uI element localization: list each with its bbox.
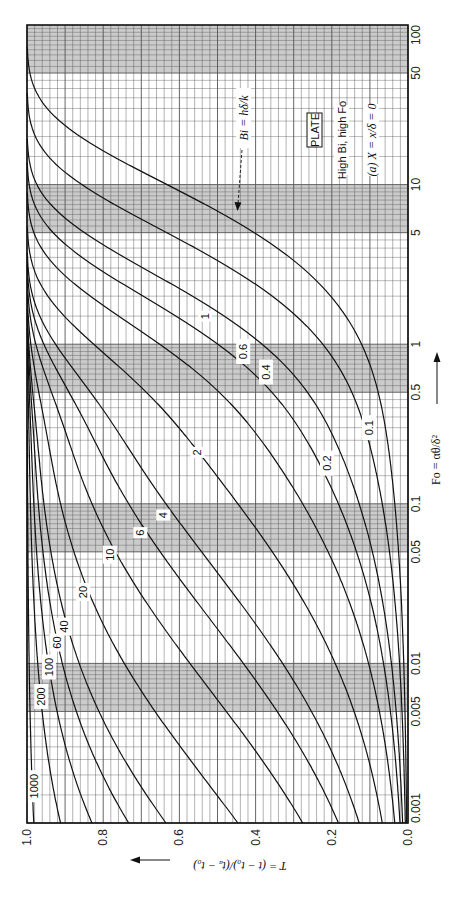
curve-label-6: 6 bbox=[133, 527, 147, 538]
svg-text:High Bi, high Fo: High Bi, high Fo bbox=[336, 101, 348, 179]
svg-text:1.0: 1.0 bbox=[20, 829, 34, 846]
svg-text:2: 2 bbox=[191, 449, 203, 455]
svg-text:0.6: 0.6 bbox=[172, 829, 186, 846]
curve-label-60: 60 bbox=[50, 634, 64, 652]
fo-tick-label: 0.1 bbox=[409, 495, 423, 512]
t-tick-label: 0.0 bbox=[401, 829, 415, 846]
curve-label-20: 20 bbox=[76, 583, 90, 601]
t-axis-ticks: 0.00.20.40.60.81.0 bbox=[20, 829, 415, 846]
curve-label-10: 10 bbox=[103, 546, 117, 564]
fo-axis-label: Fo = αθ/δ² bbox=[429, 435, 443, 485]
curve-bi-0.4 bbox=[27, 139, 402, 823]
svg-text:100: 100 bbox=[409, 25, 423, 45]
svg-text:0.005: 0.005 bbox=[409, 696, 423, 726]
svg-text:0.1: 0.1 bbox=[409, 495, 423, 512]
t-axis-label: T = (t − t₀)/(tₐ − t₀) bbox=[193, 859, 286, 873]
svg-text:Fo = αθ/δ²: Fo = αθ/δ² bbox=[429, 435, 443, 485]
fo-tick-label: 0.005 bbox=[409, 696, 423, 726]
fo-tick-label: 5 bbox=[409, 229, 423, 236]
svg-text:0.2: 0.2 bbox=[325, 829, 339, 846]
t-tick-label: 0.2 bbox=[325, 829, 339, 846]
bi-arrow-label: Bi = hδ/k bbox=[236, 88, 251, 148]
svg-text:PLATE: PLATE bbox=[309, 113, 321, 147]
svg-text:0.01: 0.01 bbox=[409, 651, 423, 675]
t-tick-label: 0.6 bbox=[172, 829, 186, 846]
svg-text:10: 10 bbox=[104, 549, 116, 561]
curve-label-0.1: 0.1 bbox=[362, 415, 376, 440]
svg-text:0.5: 0.5 bbox=[409, 384, 423, 401]
svg-text:0.0: 0.0 bbox=[401, 829, 415, 846]
subtitle-label: High Bi, high Fo bbox=[334, 101, 349, 179]
svg-text:1: 1 bbox=[409, 341, 423, 348]
curve-label-4: 4 bbox=[156, 510, 170, 521]
svg-text:200: 200 bbox=[35, 687, 47, 705]
svg-text:50: 50 bbox=[409, 66, 423, 80]
fo-tick-label: 0.01 bbox=[409, 651, 423, 675]
svg-text:(a) X = x/δ = 0: (a) X = x/δ = 0 bbox=[365, 104, 379, 177]
svg-text:0.2: 0.2 bbox=[321, 455, 333, 470]
svg-text:10: 10 bbox=[409, 178, 423, 192]
svg-text:1000: 1000 bbox=[28, 774, 40, 798]
curve-label-100: 100 bbox=[42, 655, 56, 680]
fo-tick-label: 0.5 bbox=[409, 384, 423, 401]
svg-text:0.4: 0.4 bbox=[249, 829, 263, 846]
t-tick-label: 0.4 bbox=[249, 829, 263, 846]
plate-temperature-chart: 0.10.20.40.61246102040601002001000 0.001… bbox=[0, 0, 455, 897]
svg-text:0.4: 0.4 bbox=[260, 364, 272, 379]
svg-text:5: 5 bbox=[409, 229, 423, 236]
svg-text:6: 6 bbox=[134, 530, 146, 536]
fo-tick-label: 0.001 bbox=[409, 793, 423, 823]
t-tick-label: 0.8 bbox=[96, 829, 110, 846]
t-tick-label: 1.0 bbox=[20, 829, 34, 846]
curve-label-1: 1 bbox=[198, 311, 212, 322]
curve-label-0.6: 0.6 bbox=[236, 339, 250, 364]
svg-text:4: 4 bbox=[157, 512, 169, 518]
curve-label-0.2: 0.2 bbox=[320, 451, 334, 476]
plate-title-box: PLATE bbox=[307, 113, 322, 147]
svg-text:100: 100 bbox=[43, 658, 55, 676]
svg-text:0.1: 0.1 bbox=[363, 420, 375, 435]
svg-text:0.8: 0.8 bbox=[96, 829, 110, 846]
curve-label-200: 200 bbox=[34, 684, 48, 709]
fo-tick-label: 100 bbox=[409, 25, 423, 45]
fo-axis-arrow-icon bbox=[434, 352, 441, 404]
t-axis-arrow-icon bbox=[130, 857, 170, 864]
curve-bi-0.6 bbox=[27, 163, 400, 823]
svg-text:1: 1 bbox=[199, 313, 211, 319]
svg-text:0.05: 0.05 bbox=[409, 540, 423, 564]
fo-tick-label: 0.05 bbox=[409, 540, 423, 564]
curve-label-0.4: 0.4 bbox=[259, 360, 273, 385]
fo-tick-label: 10 bbox=[409, 178, 423, 192]
panel-label: (a) X = x/δ = 0 bbox=[363, 104, 379, 177]
curve-label-2: 2 bbox=[190, 447, 204, 458]
svg-text:60: 60 bbox=[51, 636, 63, 648]
svg-text:0.6: 0.6 bbox=[237, 344, 249, 359]
svg-text:40: 40 bbox=[58, 620, 70, 632]
fo-axis-ticks: 0.0010.0050.010.050.10.5151050100 bbox=[409, 25, 423, 823]
curve-label-40: 40 bbox=[57, 618, 71, 636]
svg-text:20: 20 bbox=[77, 586, 89, 598]
svg-text:T = (t − t₀)/(tₐ − t₀): T = (t − t₀)/(tₐ − t₀) bbox=[193, 859, 286, 873]
fo-tick-label: 50 bbox=[409, 66, 423, 80]
svg-text:Bi = hδ/k: Bi = hδ/k bbox=[237, 95, 251, 141]
curve-label-1000: 1000 bbox=[27, 770, 41, 802]
svg-text:0.001: 0.001 bbox=[409, 793, 423, 823]
fo-tick-label: 1 bbox=[409, 341, 423, 348]
